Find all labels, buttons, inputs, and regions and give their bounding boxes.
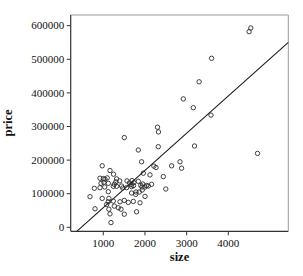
data-point <box>192 144 196 148</box>
y-tick-label: 200000 <box>31 154 65 166</box>
data-point <box>92 186 96 190</box>
scatter-plot-figure: 1000200030004000010000020000030000040000… <box>0 0 303 276</box>
data-point <box>108 212 112 216</box>
data-point <box>109 220 113 224</box>
data-point <box>155 125 159 129</box>
data-point <box>255 151 259 155</box>
plot-box <box>71 15 289 231</box>
data-point <box>136 148 140 152</box>
data-point <box>107 207 111 211</box>
data-series <box>77 26 289 232</box>
data-point <box>122 212 126 216</box>
y-tick-label: 300000 <box>31 120 65 132</box>
data-point <box>139 160 143 164</box>
data-point <box>249 26 253 30</box>
data-point <box>156 145 160 149</box>
data-point <box>122 135 126 139</box>
x-tick-label: 1000 <box>92 237 115 249</box>
data-point <box>169 164 173 168</box>
data-point <box>108 168 112 172</box>
data-point <box>209 56 213 60</box>
data-point <box>143 194 147 198</box>
x-tick-label: 2000 <box>134 237 157 249</box>
data-point <box>111 172 115 176</box>
y-tick-label: 500000 <box>31 53 65 65</box>
data-point <box>131 199 135 203</box>
data-point <box>106 190 110 194</box>
axis-tick-labels: 1000200030004000010000020000030000040000… <box>31 19 240 248</box>
data-point <box>100 164 104 168</box>
data-point <box>111 199 115 203</box>
x-axis-title: size <box>170 250 190 264</box>
data-point <box>161 174 165 178</box>
data-point <box>164 187 168 191</box>
data-point <box>181 97 185 101</box>
data-point <box>178 160 182 164</box>
y-axis-title: price <box>1 109 15 137</box>
y-tick-label: 400000 <box>31 87 65 99</box>
y-tick-label: 100000 <box>31 187 65 199</box>
x-tick-label: 3000 <box>176 237 199 249</box>
data-point <box>103 185 107 189</box>
data-point <box>88 195 92 199</box>
data-point <box>106 181 110 185</box>
data-point <box>93 207 97 211</box>
scatter-plot: 1000200030004000010000020000030000040000… <box>0 0 303 276</box>
data-point <box>191 106 195 110</box>
data-point <box>209 113 213 117</box>
data-point <box>179 166 183 170</box>
x-tick-label: 4000 <box>217 237 240 249</box>
y-tick-label: 0 <box>59 221 65 233</box>
data-point <box>156 130 160 134</box>
data-point <box>148 173 152 177</box>
data-point <box>134 210 138 214</box>
data-point <box>99 181 103 185</box>
data-point <box>98 186 102 190</box>
data-point <box>118 200 122 204</box>
data-point <box>100 196 104 200</box>
data-point <box>197 80 201 84</box>
y-tick-label: 600000 <box>31 19 65 31</box>
data-point <box>138 201 142 205</box>
data-point <box>126 200 130 204</box>
axis-ticks <box>67 26 229 236</box>
